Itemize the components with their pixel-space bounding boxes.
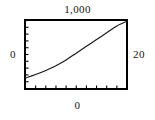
chart-figure: 1,000 0 20 0 bbox=[0, 0, 155, 120]
plot-frame bbox=[25, 20, 127, 89]
plot-area bbox=[0, 0, 155, 120]
data-curve-line bbox=[26, 21, 128, 78]
